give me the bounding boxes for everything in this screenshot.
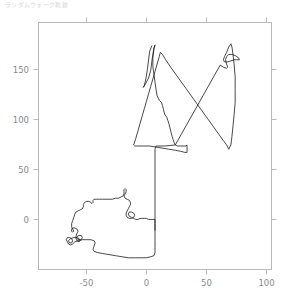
- x-tick-label-50: 50: [201, 278, 212, 288]
- y-axis-ticks-left: [34, 70, 39, 220]
- figure-container: ランダムウォーク軌跡: [0, 0, 288, 303]
- x-axis-ticks-bottom: [87, 270, 267, 275]
- y-tick-label-150: 150: [13, 65, 29, 75]
- x-tick-label-100: 100: [258, 278, 274, 288]
- x-axis-ticks-top: [87, 18, 267, 23]
- trajectory-line: [66, 44, 239, 258]
- x-tick-label-neg50: -50: [80, 278, 94, 288]
- y-tick-label-50: 50: [18, 165, 29, 175]
- y-tick-label-0: 0: [24, 215, 29, 225]
- plot-canvas: 0 50 100 150 -50 0 50 100: [0, 0, 288, 303]
- x-tick-label-0: 0: [144, 278, 149, 288]
- y-axis-ticks-right: [272, 70, 277, 220]
- y-tick-label-100: 100: [13, 115, 29, 125]
